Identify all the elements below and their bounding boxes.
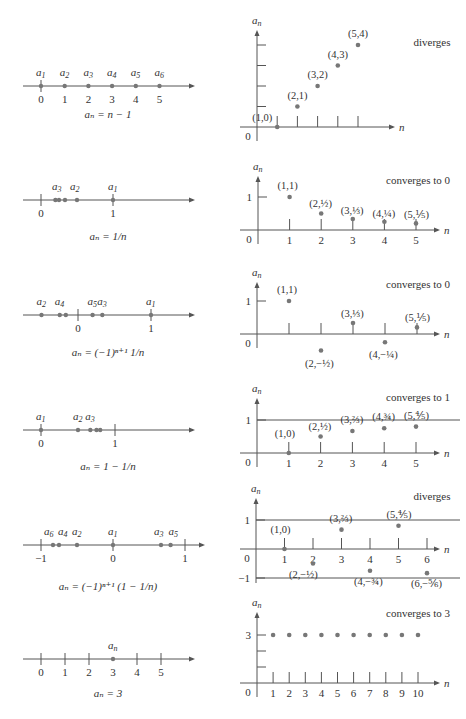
number-line-tick-label: 0 [75,322,81,334]
x-axis-label: n [399,121,405,133]
number-line: 01a2a4a5a3a1aₙ = (−1)ⁿ⁺¹ 1/n [23,295,195,359]
data-point [287,299,292,304]
data-point-label: (4,−¾) [354,576,383,588]
number-line-tick-label: 0 [38,93,44,105]
number-line-tick-label: −1 [35,552,47,564]
y-tick-label: 3 [246,629,252,641]
arrow-head-icon [255,612,260,618]
number-line-point [111,543,115,547]
x-tick-label: 2 [318,234,324,246]
term-label: a2 [72,525,82,539]
data-point-label: (2,½) [309,198,332,210]
data-point-label: (3,2) [308,69,329,81]
x-tick-label: 4 [382,234,388,246]
term-label: a2 [70,180,80,194]
number-line-point [134,84,138,88]
x-tick-label: 1 [270,687,276,699]
number-line-point [168,543,172,547]
data-point [287,195,292,200]
term-label: a6 [44,525,54,539]
sequence-plot: ann01(1,1)(2,−½)(3,⅓)(4,−¼)(5,⅕)converge… [240,266,450,370]
data-point-label: (5,⅕) [404,209,430,221]
x-tick-label: 5 [335,687,341,699]
number-line-point [159,543,163,547]
origin-label: 0 [245,686,251,698]
arrow-head-icon [434,451,440,456]
number-line-point [98,428,102,432]
data-point [416,633,421,638]
term-label: a5 [88,295,98,309]
term-label: an [252,266,262,280]
arrow-head-icon [189,198,195,203]
term-label: a3 [85,410,95,424]
data-point-label: (3,⅔) [340,414,363,426]
data-point [368,568,373,573]
data-point [319,633,324,638]
sequence-row-alternating-one-over-n: 01a2a4a5a3a1aₙ = (−1)ⁿ⁺¹ 1/nann01(1,1)(2… [23,266,450,370]
number-line-tick-label: 4 [133,93,139,105]
data-point [275,125,280,130]
data-point [415,325,420,330]
number-line-point [39,84,43,88]
term-label: a5 [169,525,179,539]
arrow-head-icon [434,681,440,686]
number-line-point [88,428,92,432]
number-line-tick-label: 2 [86,666,92,678]
sequence-formula: aₙ = (−1)ⁿ⁺¹ (1 − 1/n) [59,580,158,593]
arrow-head-icon [255,398,260,404]
data-point [384,633,389,638]
number-line-point [111,657,115,661]
arrow-head-icon [434,332,440,337]
number-line-tick-label: 1 [62,93,68,105]
number-line-point [39,313,43,317]
arrow-head-icon [189,657,195,662]
x-tick-label: 5 [413,234,419,246]
number-line-point [86,84,90,88]
convergence-status: diverges [413,490,450,502]
data-point-label: (2,−½) [305,358,334,370]
number-line-point [149,313,153,317]
arrow-head-icon [255,282,260,288]
convergence-status: converges to 0 [386,278,450,290]
x-tick-label: 7 [367,687,373,699]
x-tick-label: 10 [413,687,425,699]
arrow-head-icon [389,125,395,130]
arrow-head-icon [256,176,261,182]
data-point-label: (3,⅓) [341,205,364,217]
number-line-point [64,313,68,317]
data-point [414,221,419,226]
number-line-tick-label: 2 [86,93,92,105]
number-line-point [57,543,61,547]
data-point [351,633,356,638]
number-line: 01a3a2a1aₙ = 1/n [23,180,195,242]
term-label: an [252,596,262,610]
number-line-point [90,313,94,317]
x-tick-label: 2 [286,687,292,699]
data-point-label: (1,1) [277,284,298,296]
x-tick-label: 4 [319,687,325,699]
x-tick-label: 3 [350,234,356,246]
data-point [339,527,344,532]
y-tick-label: 1 [246,414,252,426]
number-line-point [53,198,57,202]
arrow-head-icon [434,228,440,233]
term-label: a3 [97,295,107,309]
data-point [303,633,308,638]
data-point-label: (2,½) [309,421,332,433]
x-axis-label: n [444,447,450,459]
data-point [271,633,276,638]
term-label: a6 [155,66,165,80]
sequence-formula: aₙ = n − 1 [85,108,132,120]
sequence-formula: aₙ = (−1)ⁿ⁺¹ 1/n [72,346,145,359]
x-tick-label: 5 [413,457,419,469]
x-tick-label: 3 [350,457,356,469]
data-point [311,561,316,566]
x-tick-label: 5 [396,553,402,565]
term-label: an [108,639,118,653]
data-point [282,547,287,552]
arrow-head-icon [254,498,259,504]
data-point-label: (4,−¼) [369,349,398,361]
x-tick-label: 1 [286,457,292,469]
data-point [400,633,405,638]
term-label: an [253,160,263,174]
